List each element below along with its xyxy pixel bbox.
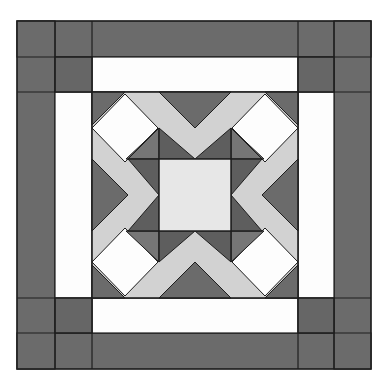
border-top-white bbox=[92, 57, 298, 92]
border-right-dark bbox=[334, 21, 371, 369]
corner-square-bl bbox=[55, 298, 92, 333]
border-left-dark bbox=[17, 21, 55, 369]
corner-square-tl bbox=[55, 57, 92, 92]
quilt-block-diagram bbox=[0, 0, 389, 383]
border-right-white bbox=[298, 92, 334, 298]
border-bottom-white bbox=[92, 298, 298, 333]
center-block bbox=[92, 92, 298, 298]
border-top-dark bbox=[17, 21, 371, 57]
center-square bbox=[159, 159, 231, 231]
border-left-white bbox=[55, 92, 92, 298]
border-bottom-dark bbox=[17, 333, 371, 369]
corner-square-tr bbox=[298, 57, 334, 92]
corner-square-br bbox=[298, 298, 334, 333]
